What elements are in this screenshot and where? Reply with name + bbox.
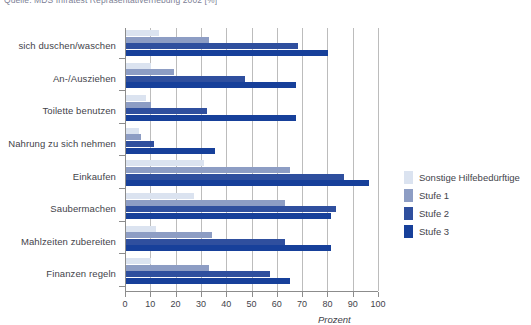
y-axis-tick	[119, 90, 125, 91]
bar-4	[126, 245, 331, 251]
x-axis-title: Prozent	[318, 314, 351, 325]
bar-3	[126, 206, 336, 212]
source-caption: Quelle: MDS Infratest Repräsentativerheb…	[4, 0, 217, 5]
x-axis-tick	[353, 292, 354, 297]
y-axis-tick	[119, 286, 125, 287]
y-axis-tick	[119, 221, 125, 222]
bar-1	[126, 128, 139, 134]
bar-3	[126, 239, 285, 245]
bar-1	[126, 63, 151, 69]
bar-4	[126, 115, 296, 121]
x-axis-tick-label: 70	[292, 299, 312, 309]
gridline	[226, 28, 227, 291]
gridline	[378, 28, 379, 291]
y-axis-tick	[119, 155, 125, 156]
category-label: An-/Ausziehen	[0, 73, 116, 84]
category-label: Toilette benutzen	[0, 105, 116, 116]
x-axis-tick	[252, 292, 253, 297]
bar-1	[126, 30, 159, 36]
bar-4	[126, 180, 369, 186]
category-label: sich duschen/waschen	[0, 40, 116, 51]
x-axis-tick-label: 60	[267, 299, 287, 309]
legend-swatch	[404, 189, 413, 202]
legend-label: Stufe 3	[419, 226, 449, 237]
bar-1	[126, 160, 204, 166]
category-label: Einkaufen	[0, 171, 116, 182]
bar-2	[126, 265, 209, 271]
legend-item[interactable]: Stufe 2	[404, 204, 531, 222]
bar-3	[126, 43, 298, 49]
bar-4	[126, 278, 290, 284]
x-axis-tick	[327, 292, 328, 297]
bar-2	[126, 232, 212, 238]
gridline	[302, 28, 303, 291]
y-axis-tick	[119, 123, 125, 124]
legend-swatch	[404, 225, 413, 238]
bar-1	[126, 226, 156, 232]
category-label: Nahrung zu sich nehmen	[0, 138, 116, 149]
x-axis-tick-label: 20	[166, 299, 186, 309]
legend-swatch	[404, 171, 413, 184]
bar-4	[126, 82, 296, 88]
bar-3	[126, 108, 207, 114]
bar-4	[126, 50, 328, 56]
bar-1	[126, 193, 194, 199]
x-axis-tick-label: 50	[242, 299, 262, 309]
bar-2	[126, 167, 290, 173]
x-axis-tick-label: 10	[140, 299, 160, 309]
x-axis-tick	[150, 292, 151, 297]
y-axis-tick	[119, 253, 125, 254]
bar-1	[126, 95, 146, 101]
x-axis-tick	[176, 292, 177, 297]
gridline	[277, 28, 278, 291]
gridline	[252, 28, 253, 291]
bar-2	[126, 37, 209, 43]
legend-item[interactable]: Stufe 1	[404, 186, 531, 204]
x-axis-tick	[125, 292, 126, 297]
y-axis-tick	[119, 58, 125, 59]
legend-item[interactable]: Stufe 3	[404, 222, 531, 240]
legend-item[interactable]: Sonstige Hilfebedürftige	[404, 168, 531, 186]
bar-4	[126, 148, 215, 154]
x-axis-tick-label: 90	[343, 299, 363, 309]
bar-3	[126, 174, 344, 180]
x-axis-tick-label: 0	[115, 299, 135, 309]
x-axis-tick	[378, 292, 379, 297]
y-axis-tick	[119, 188, 125, 189]
category-label: Finanzen regeln	[0, 268, 116, 279]
chart-area: sich duschen/waschenAn-/AusziehenToilett…	[0, 14, 531, 320]
category-label: Mahlzeiten zubereiten	[0, 236, 116, 247]
x-axis-tick-label: 30	[191, 299, 211, 309]
gridline	[353, 28, 354, 291]
bar-3	[126, 76, 245, 82]
bar-2	[126, 102, 151, 108]
x-axis-tick-label: 80	[317, 299, 337, 309]
bar-3	[126, 271, 270, 277]
legend-label: Stufe 1	[419, 190, 449, 201]
bar-1	[126, 258, 151, 264]
legend-swatch	[404, 207, 413, 220]
x-axis-tick-label: 100	[368, 299, 388, 309]
bar-2	[126, 134, 141, 140]
legend-label: Sonstige Hilfebedürftige	[419, 172, 520, 183]
legend-label: Stufe 2	[419, 208, 449, 219]
x-axis-tick	[201, 292, 202, 297]
x-axis-tick	[302, 292, 303, 297]
x-axis-tick	[226, 292, 227, 297]
bar-2	[126, 69, 174, 75]
x-axis-tick-label: 40	[216, 299, 236, 309]
category-label: Saubermachen	[0, 203, 116, 214]
gridline	[327, 28, 328, 291]
x-axis-tick	[277, 292, 278, 297]
bar-3	[126, 141, 154, 147]
bar-4	[126, 213, 331, 219]
bar-2	[126, 200, 285, 206]
legend: Sonstige HilfebedürftigeStufe 1Stufe 2St…	[404, 168, 531, 240]
